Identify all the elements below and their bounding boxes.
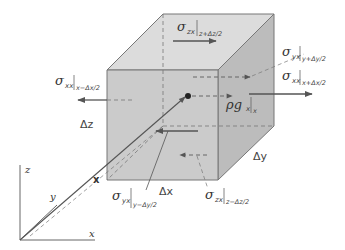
y-axis-label: y <box>49 191 56 202</box>
x-axis-label: x <box>89 228 95 239</box>
svg-text:y−Δy/2: y−Δy/2 <box>132 201 157 209</box>
label-sxx-right: σ xx x+Δx/2 <box>282 68 326 87</box>
dy-label: Δy <box>253 150 268 163</box>
dx-label: Δx <box>159 185 174 198</box>
svg-text:σ: σ <box>205 187 215 202</box>
z-axis-label: z <box>24 164 31 175</box>
position-vector-label: x <box>93 174 100 185</box>
label-syx-front: σ yx y−Δy/2 <box>112 188 157 209</box>
svg-text:x−Δx/2: x−Δx/2 <box>75 84 100 92</box>
label-sxx-left: σ xx x−Δx/2 <box>55 73 100 92</box>
svg-text:x+Δx/2: x+Δx/2 <box>301 79 326 87</box>
centroid-point <box>185 93 191 99</box>
svg-text:σ: σ <box>112 188 122 203</box>
svg-text:σ: σ <box>55 73 65 88</box>
svg-text:σ: σ <box>177 19 187 34</box>
svg-text:σ: σ <box>282 68 292 83</box>
svg-text:x: x <box>245 105 251 113</box>
cube-front-face <box>107 70 218 180</box>
svg-text:zx: zx <box>186 28 196 36</box>
svg-text:z+Δz/2: z+Δz/2 <box>198 30 222 38</box>
svg-text:yx: yx <box>121 197 131 205</box>
dz-label: Δz <box>80 118 94 131</box>
label-szx-bottom: σ zx z−Δz/2 <box>205 187 249 206</box>
svg-text:xx: xx <box>64 82 74 90</box>
svg-text:x: x <box>252 107 257 115</box>
axes: z y x <box>20 164 95 240</box>
label-syx-back: σ yx y+Δy/2 <box>282 44 326 63</box>
svg-text:ρg: ρg <box>225 97 242 112</box>
svg-text:z−Δz/2: z−Δz/2 <box>225 198 249 206</box>
svg-text:y+Δy/2: y+Δy/2 <box>301 55 326 63</box>
fluid-element-diagram: z y x x Δz Δy Δx σ zx z+Δz/2 σ yx y+Δy/2… <box>0 0 345 250</box>
svg-text:σ: σ <box>282 44 292 59</box>
svg-text:zx: zx <box>214 196 224 204</box>
